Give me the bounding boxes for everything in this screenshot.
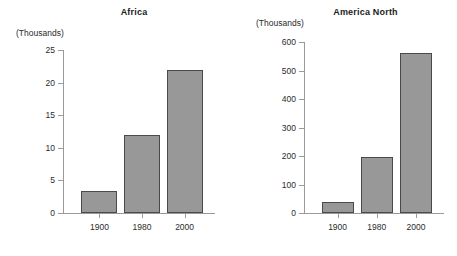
y-tick-mark-america-north-100 — [299, 185, 304, 186]
x-tick-mark-africa-2000 — [185, 214, 186, 218]
y-tick-mark-america-north-0 — [299, 213, 304, 214]
x-tick-mark-america-north-1900 — [338, 214, 339, 218]
x-tick-label-america-north-1980: 1980 — [367, 223, 386, 232]
y-tick-mark-america-north-400 — [299, 99, 304, 100]
y-tick-label-africa-25: 25 — [46, 46, 55, 55]
y-tick-label-africa-15: 15 — [46, 111, 55, 120]
y-tick-label-africa-10: 10 — [46, 144, 55, 153]
y-tick-label-america-north-100: 100 — [282, 180, 296, 189]
y-axis-line-america-north — [304, 42, 305, 214]
y-tick-label-africa-20: 20 — [46, 78, 55, 87]
y-tick-label-america-north-400: 400 — [282, 95, 296, 104]
bar-chart-figure: Africa (Thousands) 051015202519001980200… — [0, 0, 457, 256]
plot-area-africa: 0510152025190019802000 — [63, 50, 215, 214]
bar-america-north-2000 — [400, 53, 432, 213]
y-tick-mark-africa-0 — [58, 213, 63, 214]
y-tick-mark-america-north-200 — [299, 156, 304, 157]
y-tick-mark-america-north-500 — [299, 71, 304, 72]
y-tick-mark-africa-10 — [58, 148, 63, 149]
y-tick-mark-america-north-300 — [299, 128, 304, 129]
y-tick-label-america-north-200: 200 — [282, 152, 296, 161]
x-tick-label-africa-2000: 2000 — [175, 223, 194, 232]
chart-title-america-north: America North — [232, 7, 457, 17]
x-tick-label-america-north-1900: 1900 — [328, 223, 347, 232]
y-tick-label-america-north-300: 300 — [282, 123, 296, 132]
plot-area-america-north: 0100200300400500600190019802000 — [304, 42, 444, 214]
x-tick-mark-america-north-2000 — [416, 214, 417, 218]
y-tick-label-america-north-0: 0 — [291, 209, 296, 218]
chart-panel-america-north: America North (Thousands) 01002003004005… — [232, 0, 457, 256]
bar-africa-1980 — [124, 135, 160, 213]
x-tick-label-america-north-2000: 2000 — [407, 223, 426, 232]
y-tick-mark-africa-20 — [58, 83, 63, 84]
y-tick-label-america-north-500: 500 — [282, 66, 296, 75]
y-tick-mark-africa-25 — [58, 50, 63, 51]
y-axis-line-africa — [63, 50, 64, 214]
y-tick-mark-america-north-600 — [299, 42, 304, 43]
x-tick-mark-africa-1900 — [99, 214, 100, 218]
bar-america-north-1900 — [322, 202, 354, 213]
x-axis-line-america-north — [304, 213, 444, 214]
chart-panel-africa: Africa (Thousands) 051015202519001980200… — [0, 0, 232, 256]
bar-africa-1900 — [81, 191, 117, 213]
x-tick-label-africa-1900: 1900 — [90, 223, 109, 232]
bar-america-north-1980 — [361, 157, 393, 213]
x-tick-mark-america-north-1980 — [377, 214, 378, 218]
y-tick-label-america-north-600: 600 — [282, 38, 296, 47]
y-tick-label-africa-5: 5 — [50, 176, 55, 185]
bar-africa-2000 — [167, 70, 203, 213]
y-tick-mark-africa-5 — [58, 180, 63, 181]
x-tick-mark-africa-1980 — [142, 214, 143, 218]
y-axis-units-label-america-north: (Thousands) — [256, 18, 304, 28]
y-axis-units-label-africa: (Thousands) — [16, 28, 64, 38]
y-tick-label-africa-0: 0 — [50, 209, 55, 218]
chart-title-africa: Africa — [0, 7, 232, 17]
x-axis-line-africa — [63, 213, 215, 214]
x-tick-label-africa-1980: 1980 — [133, 223, 152, 232]
y-tick-mark-africa-15 — [58, 115, 63, 116]
